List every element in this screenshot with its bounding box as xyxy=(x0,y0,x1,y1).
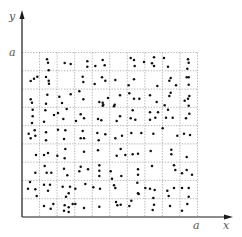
data-point xyxy=(138,97,141,100)
data-point xyxy=(185,169,188,172)
data-point xyxy=(57,128,60,131)
data-point xyxy=(34,171,37,174)
y-max-label: a xyxy=(9,46,16,59)
data-point xyxy=(45,76,48,79)
data-point xyxy=(114,187,117,190)
data-point xyxy=(188,112,191,115)
data-point xyxy=(128,92,131,95)
data-point xyxy=(111,177,114,180)
data-point xyxy=(185,156,188,159)
data-point xyxy=(79,113,82,116)
data-point xyxy=(129,57,132,60)
data-point xyxy=(43,183,46,186)
data-point xyxy=(82,98,85,101)
data-point xyxy=(167,65,170,68)
data-point xyxy=(47,69,50,72)
data-point xyxy=(47,79,50,82)
data-point xyxy=(167,195,170,198)
data-point xyxy=(33,77,36,80)
data-point xyxy=(97,149,100,152)
data-point xyxy=(151,209,154,212)
data-point xyxy=(63,138,66,141)
data-point xyxy=(169,205,172,208)
data-point xyxy=(167,108,170,111)
data-point xyxy=(181,172,184,175)
data-point xyxy=(27,187,30,190)
data-point xyxy=(133,65,136,68)
data-point xyxy=(65,108,68,111)
data-point xyxy=(137,152,140,155)
data-point xyxy=(34,188,37,191)
data-point xyxy=(181,187,184,190)
data-point xyxy=(100,119,103,122)
data-point xyxy=(45,102,48,105)
data-point xyxy=(36,75,39,78)
data-point xyxy=(29,98,32,101)
data-point xyxy=(153,189,156,192)
data-point xyxy=(136,181,139,184)
data-point xyxy=(29,181,32,184)
data-point xyxy=(173,187,176,190)
data-point xyxy=(187,61,190,64)
data-point xyxy=(191,173,194,176)
data-point xyxy=(149,150,152,153)
data-point xyxy=(31,101,34,104)
data-point xyxy=(133,59,136,62)
data-point xyxy=(53,114,56,117)
data-point xyxy=(151,62,154,65)
data-point xyxy=(69,63,72,66)
data-point xyxy=(130,132,133,135)
data-point xyxy=(169,77,172,80)
data-point xyxy=(187,83,190,86)
data-point xyxy=(74,203,77,206)
data-point xyxy=(149,118,152,121)
data-point xyxy=(83,207,86,210)
data-point xyxy=(48,82,51,85)
data-point xyxy=(144,187,147,190)
data-point xyxy=(187,104,190,107)
data-point xyxy=(34,134,37,137)
data-point xyxy=(168,95,171,98)
data-point xyxy=(130,199,133,202)
data-point xyxy=(86,65,89,68)
data-point xyxy=(187,97,190,100)
data-point xyxy=(121,134,124,137)
data-point xyxy=(98,164,101,167)
data-point xyxy=(149,111,152,114)
data-point xyxy=(149,94,152,97)
data-point xyxy=(175,84,178,87)
data-point xyxy=(166,189,169,192)
data-point xyxy=(115,154,118,157)
data-point xyxy=(56,154,59,157)
data-point xyxy=(170,148,173,151)
data-point xyxy=(181,209,184,212)
y-axis-arrow-icon xyxy=(20,10,25,19)
data-point xyxy=(46,93,49,96)
data-point xyxy=(140,132,143,135)
data-point xyxy=(69,185,72,188)
data-point xyxy=(50,171,53,174)
data-point xyxy=(97,118,100,121)
data-point xyxy=(67,192,70,195)
data-point xyxy=(152,132,155,135)
data-point xyxy=(156,85,159,88)
data-point xyxy=(87,168,90,171)
data-point xyxy=(92,186,95,189)
data-point xyxy=(161,127,164,130)
data-point xyxy=(115,201,118,204)
data-point xyxy=(119,203,122,206)
data-point xyxy=(47,189,50,192)
data-point xyxy=(101,104,104,107)
data-point xyxy=(153,56,156,59)
data-point xyxy=(44,109,47,112)
data-point xyxy=(63,204,66,207)
data-point xyxy=(94,65,97,68)
y-axis-label: y xyxy=(8,10,16,23)
data-point xyxy=(78,170,81,173)
data-point xyxy=(45,139,48,142)
data-point xyxy=(115,120,118,123)
data-point xyxy=(119,148,122,151)
data-point xyxy=(151,165,154,168)
data-point xyxy=(107,97,110,100)
data-point xyxy=(98,205,101,208)
